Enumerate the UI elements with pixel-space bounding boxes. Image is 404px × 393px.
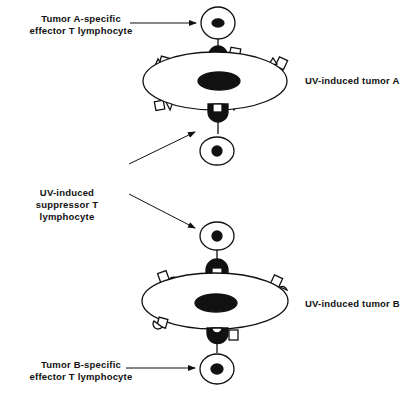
arrow-suppressor-b <box>129 194 195 228</box>
suppressor-cell-b <box>200 222 234 260</box>
label-suppressor: UV-induced suppressor T lymphocyte <box>8 187 126 223</box>
label-effector-b: Tumor B-specific effector T lymphocyte <box>28 359 134 383</box>
tumor-a <box>143 46 288 134</box>
label-tumor-a: UV-induced tumor A <box>305 75 400 87</box>
suppressor-cell-a <box>200 137 234 165</box>
label-tumor-b: UV-induced tumor B <box>305 298 400 310</box>
effector-cell-b <box>200 354 234 384</box>
arrow-suppressor-a <box>129 132 195 164</box>
tumor-b <box>142 259 288 353</box>
effector-cell-a <box>201 7 235 48</box>
label-effector-a: Tumor A-specific effector T lymphocyte <box>28 13 134 37</box>
